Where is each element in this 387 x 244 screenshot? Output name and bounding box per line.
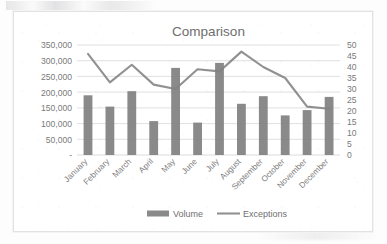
- legend-swatch-bar: [147, 211, 169, 217]
- bar-april[interactable]: [149, 121, 158, 155]
- left-axis-tick-label: 100,000: [41, 119, 72, 129]
- right-axis-tick-label: 40: [347, 62, 357, 72]
- left-axis-tick-label: 200,000: [41, 88, 72, 98]
- bar-november[interactable]: [303, 110, 312, 155]
- x-axis-label-march: March: [111, 157, 134, 180]
- bar-september[interactable]: [259, 96, 268, 155]
- legend-label-exceptions: Exceptions: [243, 209, 288, 219]
- bar-december[interactable]: [325, 97, 334, 155]
- bar-june[interactable]: [193, 123, 202, 155]
- chart-container[interactable]: Comparison350,000300,000250,000200,00015…: [13, 11, 373, 232]
- x-axis-label-may: May: [160, 156, 178, 174]
- right-axis-tick-label: 20: [347, 106, 357, 116]
- legend-item-volume[interactable]: Volume: [147, 209, 203, 219]
- scan-artifact-bottom: [257, 232, 377, 240]
- x-axis-label-july: July: [204, 156, 221, 173]
- left-axis-tick-label: 250,000: [41, 72, 72, 82]
- x-axis-label-june: June: [180, 157, 199, 176]
- bar-may[interactable]: [171, 68, 180, 155]
- legend-item-exceptions[interactable]: Exceptions: [217, 209, 288, 219]
- bar-july[interactable]: [215, 63, 224, 155]
- x-axis-label-april: April: [137, 157, 155, 175]
- right-axis-tick-label: 15: [347, 117, 357, 127]
- comparison-chart[interactable]: Comparison350,000300,000250,000200,00015…: [14, 12, 370, 229]
- left-axis-tick-label: 150,000: [41, 103, 72, 113]
- scan-artifact-top: [6, 1, 156, 10]
- right-axis-tick-label: 25: [347, 95, 357, 105]
- legend-label-volume: Volume: [173, 209, 203, 219]
- left-axis-tick-label: -: [69, 150, 72, 160]
- exceptions-line[interactable]: [88, 52, 329, 109]
- bar-january[interactable]: [84, 95, 93, 155]
- right-axis-tick-label: 0: [347, 150, 352, 160]
- left-axis-tick-label: 300,000: [41, 56, 72, 66]
- right-axis-tick-label: 10: [347, 128, 357, 138]
- right-axis-tick-label: 5: [347, 139, 352, 149]
- right-axis-tick-label: 50: [347, 40, 357, 50]
- left-axis-tick-label: 350,000: [41, 40, 72, 50]
- right-axis-tick-label: 45: [347, 51, 357, 61]
- bar-february[interactable]: [106, 107, 115, 155]
- chart-title: Comparison: [172, 24, 245, 39]
- bar-august[interactable]: [237, 104, 246, 155]
- bar-march[interactable]: [127, 91, 136, 155]
- left-axis-tick-label: 50,000: [46, 135, 73, 145]
- right-axis-tick-label: 30: [347, 84, 357, 94]
- bar-october[interactable]: [281, 115, 290, 155]
- right-axis-tick-label: 35: [347, 73, 357, 83]
